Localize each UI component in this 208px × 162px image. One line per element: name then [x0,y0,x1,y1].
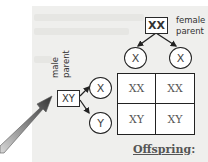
offspring-label: Offspring [133,143,191,156]
grid-cell: XX [156,74,194,104]
female-parent-label: female parent [176,15,205,37]
male-gamete-y: Y [89,112,112,134]
male-parent-genotype-box: XY [57,90,80,107]
offspring-heading: Offspring: [133,143,195,156]
female-label-line2: parent [176,26,205,37]
male-label-line1: male [50,50,61,78]
pointer-arrow-icon [0,96,52,153]
grid-cell: XX [118,74,156,104]
female-label-line1: female [176,15,205,26]
male-parent-label: male parent [50,50,72,78]
female-gamete-1: X [124,47,147,69]
grid-cell: XY [118,104,156,134]
male-gamete-x: X [89,77,112,99]
male-label-line2: parent [61,50,72,78]
offspring-colon: : [191,143,195,156]
grid-cell: XY [156,104,194,134]
female-gamete-2: X [169,47,192,69]
punnett-grid: XX XX XY XY [117,73,195,135]
female-parent-genotype-box: XX [145,17,168,34]
